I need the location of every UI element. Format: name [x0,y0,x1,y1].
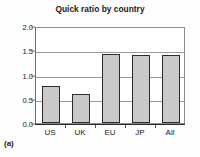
x-axis-tick-mark [65,125,66,128]
x-axis-tick-mark [125,125,126,128]
x-axis-tick-mark [155,125,156,128]
bar-uk [72,94,91,123]
y-axis-tick-label: 2.0 [2,23,33,32]
x-axis-tick-label: UK [74,128,85,137]
x-axis-line [35,124,185,125]
bar-jp [132,55,151,123]
y-axis-tick-label: 1.5 [2,47,33,56]
plot-area [35,27,185,124]
x-axis-tick-mark [95,125,96,128]
x-axis-tick-label: All [166,128,175,137]
bar-us [42,86,61,123]
x-axis-tick-label: EU [104,128,115,137]
gridline [36,52,184,53]
chart-title: Quick ratio by country [0,4,200,14]
y-axis-tick-label: 0.0 [2,120,33,129]
bar-eu [102,54,121,123]
chart-figure: Quick ratio by country 0.00.51.01.52.0 (… [0,0,200,157]
x-axis-tick-label: US [44,128,55,137]
panel-label: (a) [4,139,14,148]
bar-all [162,55,181,123]
x-axis-tick-label: JP [135,128,144,137]
y-axis-tick-label: 0.5 [2,95,33,104]
y-axis-line [35,27,36,124]
y-axis-tick-label: 1.0 [2,71,33,80]
y-axis-ticks: 0.00.51.01.52.0 [0,27,33,124]
